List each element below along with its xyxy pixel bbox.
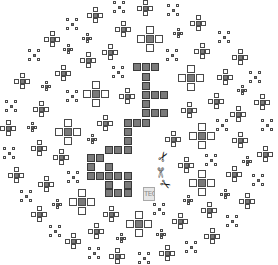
cluster-cell: [64, 155, 69, 160]
cluster-cell: [236, 117, 241, 122]
cluster-cell: [263, 146, 268, 151]
cluster-cell: [244, 89, 247, 92]
cluster-cell: [166, 49, 169, 52]
cluster-cell: [201, 208, 206, 213]
cluster-cell: [270, 128, 273, 131]
letter-block: [124, 119, 132, 127]
cluster-cell: [108, 50, 113, 55]
cluster-cell: [135, 229, 143, 237]
cluster-cell: [232, 55, 237, 60]
cluster-cell: [218, 31, 221, 34]
cluster-cell: [14, 109, 17, 112]
cluster-cell: [121, 32, 126, 37]
cluster-cell: [159, 251, 164, 256]
cluster-cell: [20, 199, 23, 202]
cluster-cell: [71, 233, 76, 238]
cluster-cell: [146, 44, 154, 52]
cluster-cell: [108, 55, 113, 60]
cluster-cell: [147, 261, 150, 264]
cluster-cell: [235, 224, 238, 227]
cluster-cell: [48, 85, 51, 88]
cluster-cell: [41, 85, 44, 88]
letter-block: [142, 100, 150, 108]
cluster-cell: [237, 172, 242, 177]
cluster-cell: [42, 212, 47, 217]
letter-block: [105, 189, 113, 197]
cluster-cell: [257, 152, 262, 157]
letter-block: [142, 119, 150, 127]
cluster-cell: [94, 234, 99, 239]
cluster-cell: [243, 55, 248, 60]
cluster-cell: [97, 256, 100, 259]
cluster-cell: [101, 90, 109, 98]
cluster-cell: [114, 212, 119, 217]
cluster-cell: [88, 229, 93, 234]
cluster-cell: [31, 146, 36, 151]
cluster-cell: [71, 95, 74, 98]
cluster-cell: [258, 80, 261, 83]
cluster-cell: [20, 190, 23, 193]
cluster-cell: [200, 54, 205, 59]
cluster-cell: [118, 6, 121, 9]
cluster-cell: [210, 239, 215, 244]
cluster-cell: [252, 183, 255, 186]
cluster-cell: [94, 223, 99, 228]
cluster-cell: [249, 71, 252, 74]
cluster-cell: [194, 49, 199, 54]
cluster-cell: [200, 43, 205, 48]
letter-block: [114, 189, 122, 197]
cluster-cell: [82, 37, 85, 40]
cluster-cell: [208, 99, 213, 104]
cluster-cell: [223, 75, 228, 80]
cluster-cell: [254, 76, 257, 79]
cluster-cell: [238, 143, 243, 148]
cluster-cell: [207, 208, 212, 213]
cluster-cell: [55, 37, 60, 42]
cluster-cell: [143, 6, 148, 11]
cluster-cell: [78, 189, 86, 197]
cluster-cell: [187, 74, 195, 82]
cluster-cell: [173, 32, 176, 35]
cluster-cell: [11, 126, 16, 131]
cluster-cell: [86, 52, 91, 57]
cluster-cell: [257, 179, 260, 182]
cluster-cell: [44, 107, 49, 112]
cluster-cell: [189, 163, 194, 168]
cluster-cell: [216, 119, 219, 122]
cluster-cell: [97, 121, 102, 126]
cluster-cell: [66, 27, 69, 30]
cluster-cell: [103, 121, 108, 126]
cluster-cell: [53, 155, 58, 160]
cluster-cell: [75, 90, 78, 93]
cluster-cell: [214, 93, 219, 98]
cluster-cell: [29, 199, 32, 202]
cluster-cell: [126, 220, 134, 228]
cluster-cell: [261, 119, 264, 122]
cluster-cell: [198, 188, 206, 196]
cluster-cell: [184, 168, 189, 173]
cluster-cell: [146, 35, 154, 43]
pattern-canvas: TEC ✂✄✂: [0, 0, 278, 265]
cluster-cell: [86, 58, 91, 63]
cluster-cell: [238, 60, 243, 65]
cluster-cell: [125, 94, 130, 99]
cluster-cell: [14, 79, 19, 84]
cluster-cell: [33, 54, 36, 57]
cluster-cell: [181, 108, 186, 113]
cluster-cell: [45, 88, 48, 91]
cluster-cell: [245, 204, 250, 209]
cluster-cell: [44, 176, 49, 181]
letter-block: [105, 146, 113, 154]
cluster-cell: [59, 149, 64, 154]
cluster-cell: [144, 220, 152, 228]
cluster-cell: [241, 92, 244, 95]
cluster-cell: [103, 212, 108, 217]
cluster-cell: [187, 108, 192, 113]
cluster-cell: [12, 147, 15, 150]
cluster-cell: [44, 187, 49, 192]
cluster-cell: [249, 160, 252, 163]
cluster-cell: [153, 203, 156, 206]
letter-block: [87, 172, 95, 180]
cluster-cell: [25, 195, 28, 198]
letter-block: [151, 109, 159, 117]
